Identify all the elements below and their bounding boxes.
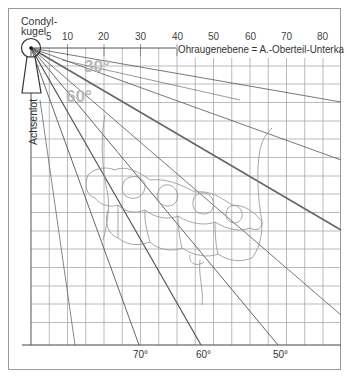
condyle-center-dot bbox=[29, 46, 33, 50]
line-80deg bbox=[40, 100, 75, 345]
condyle-stem bbox=[22, 57, 41, 93]
tick-70: 70 bbox=[281, 31, 293, 42]
tick-30: 30 bbox=[135, 31, 147, 42]
tick-80: 80 bbox=[317, 31, 329, 42]
line-60deg bbox=[31, 48, 201, 345]
condyle-label-line2: kugel bbox=[21, 25, 46, 37]
tick-5: 5 bbox=[46, 31, 52, 42]
tick-10: 10 bbox=[62, 31, 74, 42]
angle-label-30: 30° bbox=[84, 57, 110, 76]
ohraugenebene-label: Ohraugenebene = A.-Oberteil-Unterka bbox=[178, 44, 344, 55]
outer-frame bbox=[9, 9, 341, 370]
tick-20: 20 bbox=[98, 31, 110, 42]
angle-label-bottom-50: 50° bbox=[273, 349, 288, 360]
tick-40: 40 bbox=[172, 31, 184, 42]
angle-label-60: 60° bbox=[66, 87, 92, 106]
tick-50: 50 bbox=[208, 31, 220, 42]
top-scale: 5 10 20 30 40 50 60 70 80 bbox=[46, 31, 329, 42]
achsenlot-label: Achsenlot bbox=[27, 99, 39, 145]
condyle-angle-diagram: Condyl- kugel Achsenlot Ohraugenebene = … bbox=[0, 0, 347, 377]
tick-60: 60 bbox=[245, 31, 257, 42]
angle-label-bottom-70: 70° bbox=[133, 349, 148, 360]
angle-label-bottom-60: 60° bbox=[196, 349, 211, 360]
